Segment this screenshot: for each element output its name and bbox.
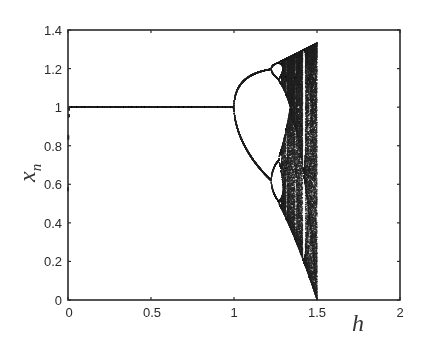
- x-tick-label: 2: [396, 305, 403, 320]
- y-tick-label: 0.2: [22, 254, 62, 269]
- x-axis-label: h: [352, 310, 364, 337]
- y-axis-label-main: x: [14, 171, 40, 182]
- x-tick-label: 0.5: [143, 305, 161, 320]
- x-tick-label: 1.5: [308, 305, 326, 320]
- y-tick-label: 1.4: [22, 23, 62, 38]
- y-axis-label-subscript: n: [28, 164, 44, 172]
- bifurcation-figure: 0 0.2 0.4 0.6 0.8 1 1.2 1.4 0 0.5 1 1.5 …: [0, 0, 425, 348]
- x-tick-label: 0: [65, 305, 72, 320]
- y-tick-label: 1: [22, 100, 62, 115]
- y-tick-label: 0.8: [22, 139, 62, 154]
- y-tick-label: 1.2: [22, 62, 62, 77]
- y-tick-label: 0.4: [22, 216, 62, 231]
- plot-area: [0, 0, 425, 348]
- y-axis-label: xn: [14, 164, 45, 182]
- y-tick-label: 0: [22, 293, 62, 308]
- x-tick-label: 1: [230, 305, 237, 320]
